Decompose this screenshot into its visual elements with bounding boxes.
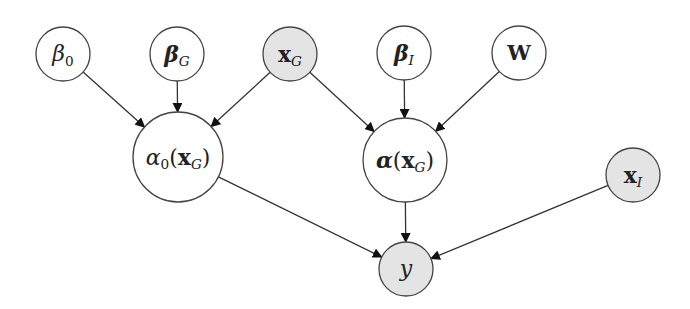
edge-xI-to-y <box>431 185 608 258</box>
nodes-layer <box>36 26 660 296</box>
node-alpha0 <box>133 112 223 202</box>
edge-xG-to-alpha <box>310 72 374 131</box>
node-W <box>492 26 546 80</box>
node-alpha <box>363 118 447 202</box>
edge-W-to-alpha <box>436 71 500 131</box>
node-y <box>379 242 433 296</box>
node-betaG <box>150 27 204 81</box>
node-xI <box>606 148 660 202</box>
diagram-canvas <box>0 0 690 309</box>
edge-alpha0-to-y <box>218 177 381 257</box>
graphical-model-diagram: β0βGxGβIWα0(xG)α(xG)xIy <box>0 0 690 309</box>
node-betaI <box>377 26 431 80</box>
edge-xG-to-alpha0 <box>211 72 270 126</box>
edge-beta0-to-alpha0 <box>83 72 144 127</box>
node-xG <box>263 27 317 81</box>
node-beta0 <box>36 27 90 81</box>
